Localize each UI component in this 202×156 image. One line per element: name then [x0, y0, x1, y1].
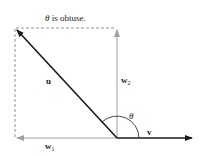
label-w2: w2	[121, 75, 131, 86]
label-v: v	[147, 127, 152, 137]
vector-projection-diagram: θ is obtuse. u v w2 w1 θ	[0, 0, 202, 156]
label-w1: w1	[45, 141, 55, 152]
label-u: u	[46, 76, 51, 86]
label-theta: θ	[129, 111, 134, 121]
diagram-title: θ is obtuse.	[45, 13, 86, 23]
